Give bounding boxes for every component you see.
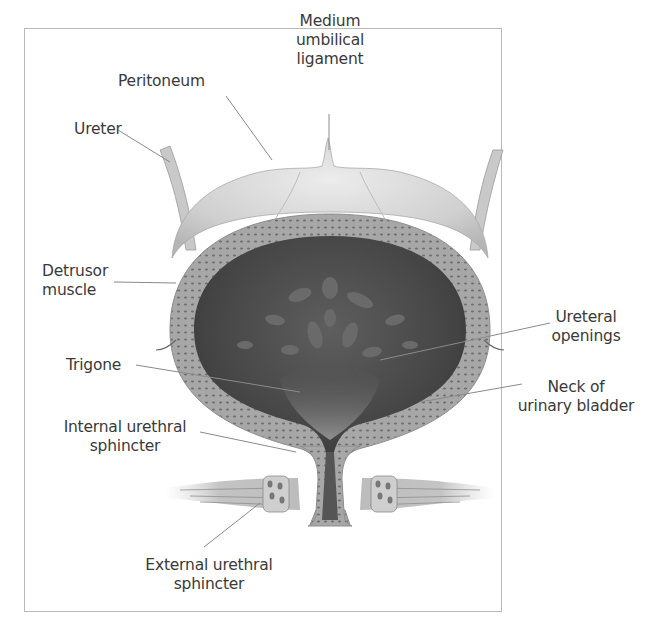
label-internal-urethral-sphincter: Internal urethral sphincter [54,418,196,456]
label-ureter: Ureter [74,120,122,139]
label-neck-of-urinary-bladder: Neck of urinary bladder [508,378,644,416]
leader-peritoneum [226,96,272,160]
label-medium-umbilical-ligament: Medium umbilical ligament [286,12,374,69]
label-ureteral-openings: Ureteral openings [540,308,632,346]
leader-ureter [118,130,170,162]
label-external-urethral-sphincter: External urethral sphincter [134,556,284,594]
bladder-lumen [194,236,466,520]
leader-detrusor-muscle [114,282,176,283]
label-trigone: Trigone [66,356,121,375]
label-peritoneum: Peritoneum [118,72,205,91]
label-detrusor-muscle: Detrusor muscle [42,262,108,300]
leader-external-urethral-sphincter [204,503,260,547]
